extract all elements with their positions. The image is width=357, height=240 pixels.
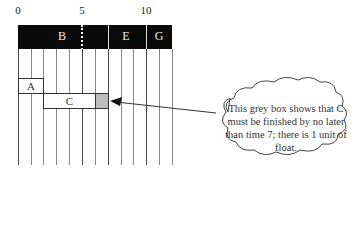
arrow-head-icon (110, 97, 122, 106)
callout-text: This grey box shows that C must be finis… (223, 102, 349, 154)
callout-arrow-line (116, 102, 216, 113)
